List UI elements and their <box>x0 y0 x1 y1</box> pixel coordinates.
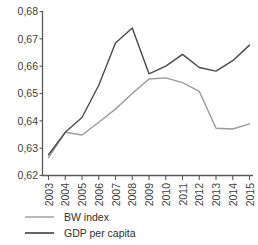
y-axis-tick-labels: 0,680,670,660,650,640,630,62 <box>18 5 39 181</box>
x-axis-tick-label: 2011 <box>177 183 189 206</box>
y-axis-tick-label: 0,68 <box>18 5 39 17</box>
x-axis-tick-label: 2007 <box>110 183 122 207</box>
series-line-gdp-per-capita <box>49 28 250 155</box>
x-axis-tick-label: 2010 <box>160 183 172 207</box>
y-axis-tick-label: 0,63 <box>18 142 39 154</box>
x-axis-tick-label: 2013 <box>210 183 222 207</box>
x-axis-tick-label: 2014 <box>227 183 239 207</box>
x-axis-tick-label: 2003 <box>43 183 55 207</box>
series-line-bw-index <box>49 78 250 158</box>
chart-legend: BW indexGDP per capita <box>25 211 136 239</box>
x-axis-tick-marks <box>49 176 250 181</box>
x-axis-tick-label: 2006 <box>93 183 105 207</box>
x-axis-tick-label: 2012 <box>193 183 205 207</box>
y-axis-tick-label: 0,62 <box>18 169 39 181</box>
y-axis-tick-label: 0,66 <box>18 60 39 72</box>
x-axis-tick-label: 2009 <box>143 183 155 207</box>
x-axis-tick-label: 2015 <box>244 183 256 207</box>
y-axis-tick-label: 0,64 <box>18 115 39 127</box>
legend-label: BW index <box>64 211 110 223</box>
x-axis-tick-labels: 2003200420052006200720082009201020112012… <box>43 183 256 207</box>
y-axis-tick-label: 0,67 <box>18 33 39 45</box>
line-chart: 0,680,670,660,650,640,630,62 20032004200… <box>0 0 258 245</box>
figure-caption <box>14 238 246 244</box>
y-axis-tick-label: 0,65 <box>18 87 39 99</box>
chart-canvas: 0,680,670,660,650,640,630,62 20032004200… <box>0 0 258 245</box>
x-axis-tick-label: 2004 <box>59 183 71 207</box>
x-axis-tick-label: 2008 <box>126 183 138 207</box>
x-axis-tick-label: 2005 <box>76 183 88 207</box>
